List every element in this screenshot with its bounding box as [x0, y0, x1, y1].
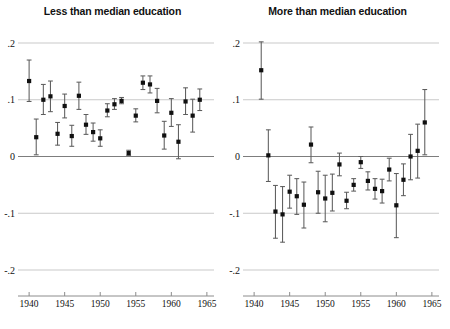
- data-series: [27, 60, 202, 159]
- panel-title-right: More than median education: [225, 5, 450, 17]
- data-point: [394, 203, 398, 207]
- x-tick-label-1: 1945: [55, 299, 74, 309]
- data-point: [423, 120, 427, 124]
- data-point: [134, 114, 138, 118]
- data-point: [309, 142, 313, 146]
- data-point: [48, 94, 52, 98]
- data-point: [183, 99, 187, 103]
- data-point: [55, 132, 59, 136]
- data-point: [162, 133, 166, 137]
- x-tick-label-3: 1955: [126, 299, 145, 309]
- data-point: [84, 123, 88, 127]
- x-tick-label-2: 1950: [91, 299, 110, 309]
- y-tick-label-1: -.1: [4, 208, 15, 219]
- data-point: [105, 108, 109, 112]
- data-point: [119, 99, 123, 103]
- figure-container: Less than median education -.2-.10.1.219…: [0, 0, 450, 329]
- x-tick-label-0: 1940: [20, 299, 39, 309]
- data-point: [112, 102, 116, 106]
- data-point: [169, 111, 173, 115]
- data-point: [176, 140, 180, 144]
- data-point: [302, 203, 306, 207]
- data-point: [27, 79, 31, 83]
- y-tick-label-3: .1: [233, 94, 241, 105]
- data-point: [295, 194, 299, 198]
- data-point: [323, 196, 327, 200]
- data-point: [141, 81, 145, 85]
- data-point: [352, 183, 356, 187]
- data-point: [191, 114, 195, 118]
- data-point: [380, 189, 384, 193]
- y-tick-label-1: -.1: [229, 208, 240, 219]
- data-point: [63, 104, 67, 108]
- y-tick-label-4: .2: [8, 38, 16, 49]
- x-tick-label-5: 1965: [197, 299, 216, 309]
- y-tick-label-3: .1: [8, 94, 16, 105]
- data-point: [337, 162, 341, 166]
- data-point: [273, 209, 277, 213]
- data-point: [148, 82, 152, 86]
- data-point: [91, 130, 95, 134]
- data-point: [288, 190, 292, 194]
- y-tick-label-4: .2: [233, 38, 241, 49]
- y-tick-label-2: 0: [10, 151, 15, 162]
- data-series: [259, 42, 427, 242]
- data-point: [387, 167, 391, 171]
- data-point: [366, 179, 370, 183]
- data-point: [266, 153, 270, 157]
- data-point: [359, 160, 363, 164]
- data-point: [198, 98, 202, 102]
- y-tick-label-0: -.2: [229, 265, 240, 276]
- panel-less-than-median-education: Less than median education -.2-.10.1.219…: [0, 0, 225, 329]
- x-tick-label-4: 1960: [162, 299, 181, 309]
- data-point: [70, 134, 74, 138]
- data-point: [259, 68, 263, 72]
- chart-right: -.2-.10.1.2194019451950195519601965: [225, 0, 450, 329]
- data-point: [316, 190, 320, 194]
- data-point: [330, 191, 334, 195]
- x-tick-label-2: 1950: [316, 299, 335, 309]
- data-point: [127, 151, 131, 155]
- data-point: [34, 135, 38, 139]
- y-tick-label-0: -.2: [4, 265, 15, 276]
- x-tick-label-0: 1940: [245, 299, 264, 309]
- panel-title-left: Less than median education: [0, 5, 225, 17]
- data-point: [344, 199, 348, 203]
- data-point: [98, 136, 102, 140]
- data-point: [41, 98, 45, 102]
- x-tick-label-1: 1945: [280, 299, 299, 309]
- data-point: [416, 149, 420, 153]
- data-point: [155, 99, 159, 103]
- x-tick-label-5: 1965: [422, 299, 441, 309]
- panel-more-than-median-education: More than median education -.2-.10.1.219…: [225, 0, 450, 329]
- chart-left: -.2-.10.1.2194019451950195519601965: [0, 0, 225, 329]
- data-point: [373, 187, 377, 191]
- data-point: [401, 178, 405, 182]
- y-tick-label-2: 0: [235, 151, 240, 162]
- data-point: [77, 94, 81, 98]
- x-tick-label-4: 1960: [387, 299, 406, 309]
- data-point: [408, 154, 412, 158]
- x-tick-label-3: 1955: [351, 299, 370, 309]
- data-point: [280, 212, 284, 216]
